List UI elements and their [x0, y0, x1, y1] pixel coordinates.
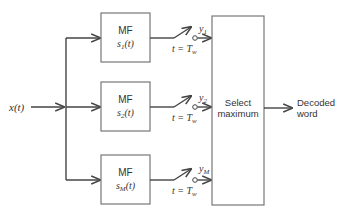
svg-text:MF: MF: [118, 94, 132, 105]
svg-text:y2: y2: [198, 92, 207, 105]
svg-text:t = Tw: t = Tw: [172, 43, 197, 56]
output-label: Decoded word: [296, 97, 335, 119]
sampler-switch-1: y1 t = Tw: [150, 23, 211, 56]
sampler-switch-m: yM t = Tw: [150, 163, 211, 198]
svg-text:word: word: [296, 108, 318, 119]
svg-text:MF: MF: [118, 25, 132, 36]
svg-text:yM: yM: [198, 163, 210, 176]
sampler-switch-2: y2 t = Tw: [150, 92, 211, 125]
matched-filter-receiver-diagram: x(t) MF s1(t) MF s2(t) MF sM(t) y1 t = T…: [0, 0, 345, 215]
matched-filter-m: MF sM(t): [101, 155, 150, 204]
input-label: x(t): [8, 101, 25, 114]
svg-text:maximum: maximum: [217, 108, 258, 119]
svg-text:Decoded: Decoded: [297, 97, 335, 108]
svg-text:y1: y1: [198, 23, 207, 36]
svg-text:t = Tw: t = Tw: [172, 185, 197, 198]
svg-text:Select: Select: [225, 97, 252, 108]
matched-filter-2: MF s2(t): [101, 82, 150, 131]
matched-filter-1: MF s1(t): [101, 13, 150, 62]
select-maximum-block: Select maximum: [212, 16, 264, 205]
svg-text:MF: MF: [118, 167, 132, 178]
svg-text:t = Tw: t = Tw: [172, 112, 197, 125]
